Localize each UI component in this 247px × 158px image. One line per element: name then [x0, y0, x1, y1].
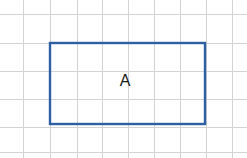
- figure-canvas: A: [0, 0, 247, 158]
- shape-label-a: A: [120, 72, 131, 89]
- graph-paper-figure: A: [0, 0, 247, 158]
